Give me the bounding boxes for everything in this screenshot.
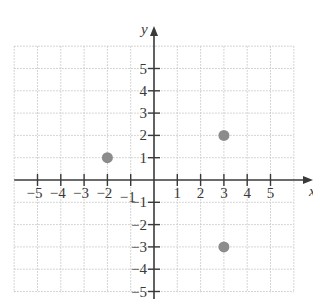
y-tick-label: −4 [131, 261, 147, 277]
x-tick-label: 3 [220, 185, 228, 201]
x-tick-label: 2 [197, 185, 205, 201]
x-tick-label: −5 [27, 185, 43, 201]
x-tick-label: 4 [243, 185, 251, 201]
y-tick-label: 4 [140, 83, 148, 99]
y-axis-label: y [139, 21, 148, 37]
y-tick-label: −2 [131, 217, 147, 233]
scatter-plot: −5−4−3−2−112345 −5−4−3−2−112345 x y [0, 0, 313, 299]
data-point [218, 130, 229, 141]
data-point [218, 241, 229, 252]
y-tick-label: −5 [131, 284, 147, 299]
x-tick-label: −2 [96, 185, 112, 201]
y-tick-label: 3 [140, 105, 148, 121]
y-axis-arrow-icon [150, 26, 158, 36]
y-tick-label: 1 [140, 150, 148, 166]
y-tick-label: 2 [140, 127, 148, 143]
y-tick-label: 5 [140, 61, 148, 77]
x-tick-label: 5 [267, 185, 275, 201]
x-axis-label: x [308, 183, 313, 199]
x-tick-label: 1 [174, 185, 182, 201]
x-tick-label: −3 [73, 185, 89, 201]
axes [14, 26, 313, 299]
y-tick-label: −1 [131, 194, 147, 210]
y-tick-label: −3 [131, 239, 147, 255]
data-point [102, 152, 113, 163]
x-tick-label: −4 [50, 185, 66, 201]
